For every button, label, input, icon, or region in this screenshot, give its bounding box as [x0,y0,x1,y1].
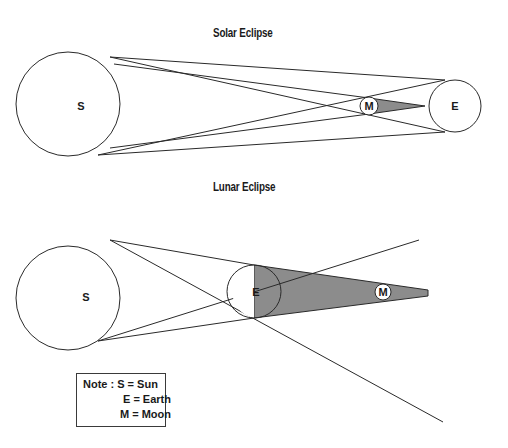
lunar-sun-circle [16,246,120,350]
lunar-eclipse-title: Lunar Eclipse [213,180,275,194]
solar-earth-label: E [451,100,458,112]
lunar-sun-label: S [82,291,89,303]
lunar-moon-label: M [378,286,387,298]
solar-eclipse-group [16,52,481,156]
legend-sun: Note : S = Sun [83,377,165,392]
legend-note-box: Note : S = Sun E = Earth M = Moon [76,373,166,427]
solar-eclipse-title: Solar Eclipse [213,26,273,40]
lunar-earth-label: E [252,286,259,298]
solar-ray [110,114,369,148]
lunar-ray [98,318,254,341]
solar-sun-label: S [77,100,84,112]
legend-moon: M = Moon [83,407,165,422]
lunar-ray [110,240,254,265]
sun-circle [16,52,120,156]
lunar-umbra-shadow [254,265,428,318]
solar-moon-label: M [364,100,373,112]
legend-earth: E = Earth [83,392,165,407]
solar-ray [114,64,369,98]
earth-lit-half [232,265,254,318]
